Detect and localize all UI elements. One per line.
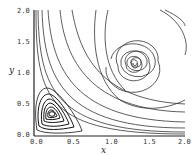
svg-text:1.5: 1.5 bbox=[17, 38, 30, 46]
svg-text:0.0: 0.0 bbox=[17, 131, 30, 139]
svg-text:0.5: 0.5 bbox=[17, 100, 30, 108]
svg-text:0.0: 0.0 bbox=[30, 138, 43, 146]
axes bbox=[34, 10, 185, 136]
spiral-trajectories bbox=[36, 10, 186, 134]
svg-text:2.0: 2.0 bbox=[17, 7, 30, 15]
svg-text:1.5: 1.5 bbox=[143, 138, 156, 146]
x-axis-label: x bbox=[101, 145, 106, 155]
svg-text:1.0: 1.0 bbox=[105, 138, 118, 146]
phase-portrait-chart: 2.0 1.5 1.0 0.5 0.0 0.0 0.5 1.0 1.5 2.0 … bbox=[0, 0, 196, 155]
y-axis-label: y bbox=[8, 65, 15, 75]
svg-text:1.0: 1.0 bbox=[17, 69, 30, 77]
x-tick-labels: 0.0 0.5 1.0 1.5 2.0 bbox=[30, 138, 191, 146]
svg-text:0.5: 0.5 bbox=[67, 138, 80, 146]
y-tick-labels: 2.0 1.5 1.0 0.5 0.0 bbox=[17, 7, 30, 139]
svg-text:2.0: 2.0 bbox=[178, 138, 191, 146]
